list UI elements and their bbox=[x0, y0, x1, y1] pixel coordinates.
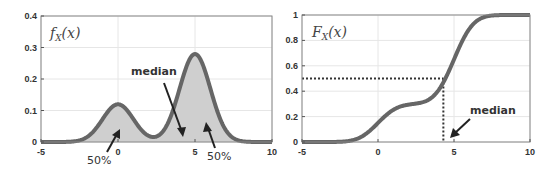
y-tick-label: 1 bbox=[293, 10, 298, 20]
y-tick-label: 0.8 bbox=[285, 35, 298, 45]
x-tick-label: 5 bbox=[192, 147, 197, 157]
x-tick-label: 5 bbox=[451, 147, 456, 157]
x-tick-label: 10 bbox=[525, 147, 535, 157]
y-tick-label: 0 bbox=[293, 137, 298, 147]
y-tick-label: 0 bbox=[32, 137, 37, 147]
cdf-median-arrow bbox=[450, 119, 470, 138]
pdf-right-50-label: 50% bbox=[207, 150, 231, 163]
x-tick-label: -5 bbox=[298, 147, 306, 157]
y-tick-label: 0.2 bbox=[285, 112, 298, 122]
x-tick-label: 10 bbox=[267, 147, 277, 157]
cdf-median-label: median bbox=[470, 104, 516, 117]
pdf-median-label: median bbox=[131, 65, 177, 78]
y-tick-label: 0.2 bbox=[24, 74, 37, 84]
y-tick-label: 0.1 bbox=[24, 106, 37, 116]
x-tick-label: -5 bbox=[37, 147, 45, 157]
y-tick-label: 0.6 bbox=[285, 61, 298, 71]
pdf-chart: -5051000.10.20.30.4 fX(x) median 50% 50% bbox=[24, 11, 277, 167]
y-tick-label: 0.4 bbox=[285, 86, 298, 96]
pdf-title: fX(x) bbox=[49, 25, 80, 43]
y-tick-label: 0.4 bbox=[24, 11, 37, 21]
cdf-title: FX(x) bbox=[311, 24, 347, 42]
x-tick-label: 0 bbox=[375, 147, 380, 157]
pdf-left-50-label: 50% bbox=[87, 154, 111, 167]
chart-figure: -5051000.10.20.30.4 fX(x) median 50% 50%… bbox=[0, 0, 558, 175]
x-tick-label: 0 bbox=[115, 147, 120, 157]
y-tick-label: 0.3 bbox=[24, 43, 37, 53]
cdf-chart: -5051000.20.40.60.81 FX(x) median bbox=[285, 10, 535, 157]
